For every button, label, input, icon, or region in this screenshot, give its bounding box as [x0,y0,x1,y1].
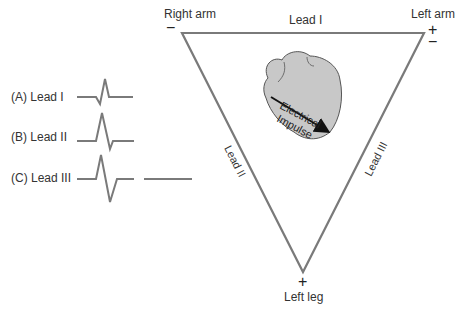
einthoven-diagram: Electrical Impulse Lead II Lead III [0,0,460,312]
right-arm-minus-sign: − [166,20,175,36]
edge-label-lead-i: Lead I [289,13,322,27]
waveform-label-lead-ii: (B) Lead II [11,130,67,144]
waveform-lead-ii [77,113,134,149]
left-leg-plus-sign: + [298,274,307,290]
waveform-label-lead-iii: (C) Lead III [11,171,71,185]
waveform-lead-iii [77,155,134,202]
waveform-lead-i [77,79,133,104]
waveform-label-lead-i: (A) Lead I [11,90,64,104]
vertex-label-left-arm: Left arm [411,7,455,21]
left-arm-minus-sign: − [428,34,437,50]
edge-label-lead-ii: Lead II [222,143,248,178]
vertex-label-left-leg: Left leg [284,290,323,304]
